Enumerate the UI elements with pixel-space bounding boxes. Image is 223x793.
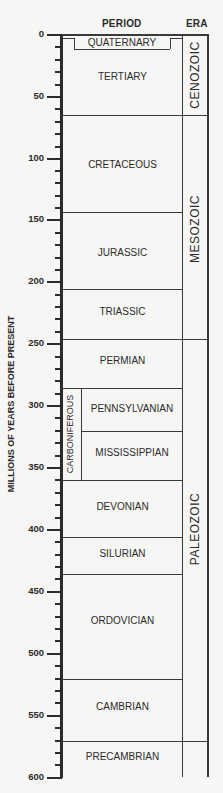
tick-label: 150 — [10, 213, 44, 224]
boundary-pennsylvanian-mississippian — [81, 431, 183, 432]
boundary-silurian-ordovician — [62, 574, 183, 575]
quaternary-line-bottom — [74, 49, 170, 50]
tick-label: 0 — [10, 28, 44, 39]
period-pennsylvanian: PENNSYLVANIAN — [81, 403, 183, 414]
tick-label: 500 — [10, 647, 44, 658]
tick-label: 300 — [10, 399, 44, 410]
tick-label: 50 — [10, 90, 44, 101]
period-permian: PERMIAN — [62, 355, 183, 366]
tick-label: 350 — [10, 461, 44, 472]
tick-label: 400 — [10, 523, 44, 534]
boundary-devonian-silurian — [62, 537, 183, 538]
period-mississippian: MISSISSIPPIAN — [81, 447, 183, 458]
period-silurian: SILURIAN — [62, 548, 183, 559]
top-border — [62, 34, 209, 36]
boundary-cambrian-precambrian — [62, 741, 208, 742]
period-cretaceous: CRETACEOUS — [62, 159, 183, 170]
era-paleozoic: PALEOZOIC — [188, 479, 202, 579]
period-carboniferous: CARBONIFEROUS — [65, 389, 77, 479]
period-tertiary: TERTIARY — [62, 71, 183, 82]
quaternary-line-left — [63, 38, 74, 39]
period-header: PERIOD — [102, 18, 142, 29]
tick-label: 550 — [10, 709, 44, 720]
quaternary-line-right-drop — [170, 38, 171, 49]
tick-label: 100 — [10, 152, 44, 163]
period-jurassic: JURASSIC — [62, 247, 183, 258]
tick-label: 600 — [10, 771, 44, 782]
period-quaternary: QUATERNARY — [74, 37, 170, 48]
boundary-cretaceous-jurassic — [62, 212, 183, 213]
carboniferous-divider — [81, 388, 82, 480]
quaternary-line-right — [170, 38, 182, 39]
boundary-carboniferous-devonian — [62, 480, 183, 481]
boundary-tertiary-cretaceous — [62, 115, 208, 116]
right-border — [207, 34, 209, 777]
period-triassic: TRIASSIC — [62, 306, 183, 317]
period-ordovician: ORDOVICIAN — [62, 615, 183, 626]
era-cenozoic: CENOZOIC — [188, 25, 202, 125]
period-devonian: DEVONIAN — [62, 501, 183, 512]
period-cambrian: CAMBRIAN — [62, 701, 183, 712]
boundary-ordovician-cambrian — [62, 679, 183, 680]
period-precambrian: PRECAMBRIAN — [62, 751, 183, 762]
era-mesozoic: MESOZOIC — [188, 179, 202, 279]
tick-label: 250 — [10, 337, 44, 348]
tick-label: 200 — [10, 275, 44, 286]
tick-label: 450 — [10, 585, 44, 596]
boundary-triassic-permian — [62, 339, 208, 340]
boundary-jurassic-triassic — [62, 289, 183, 290]
